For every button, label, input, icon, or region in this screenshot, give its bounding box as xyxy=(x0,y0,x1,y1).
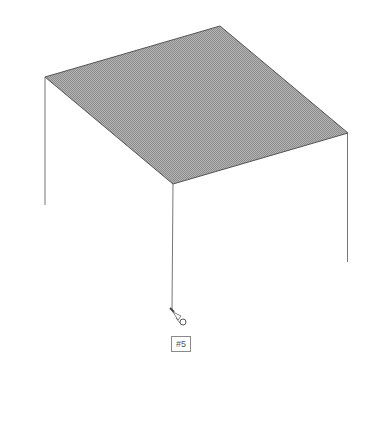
leg-front xyxy=(172,184,173,310)
point-label: #5 xyxy=(171,336,191,352)
diagram-canvas xyxy=(0,0,372,434)
probe-cursor-icon[interactable] xyxy=(170,308,186,325)
point-label-text: #5 xyxy=(176,339,186,349)
plate-surface xyxy=(45,26,348,184)
